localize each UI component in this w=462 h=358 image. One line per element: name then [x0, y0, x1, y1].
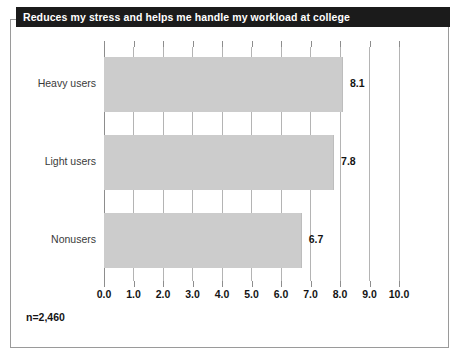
- tick-bottom-1.0: [134, 281, 135, 287]
- x-axis-tick-labels: 0.01.02.03.04.05.06.07.08.09.010.0: [104, 288, 399, 302]
- plot-area: 8.17.86.7: [104, 47, 399, 281]
- gridline-10.0: [399, 47, 400, 281]
- bar-heavy-users[interactable]: [104, 57, 343, 112]
- tick-bottom-8.0: [340, 281, 341, 287]
- chart-title-bar: Reduces my stress and helps me handle my…: [16, 7, 450, 27]
- tick-bottom-0.0: [104, 281, 105, 287]
- category-label-heavy-users: Heavy users: [6, 77, 96, 89]
- tick-top-8.0: [340, 41, 341, 47]
- bar-value-label-heavy-users: 8.1: [350, 77, 365, 89]
- tick-bottom-3.0: [193, 281, 194, 287]
- x-tick-label-4.0: 4.0: [215, 288, 230, 300]
- tick-top-10.0: [399, 41, 400, 47]
- tick-bottom-5.0: [252, 281, 253, 287]
- page-title: Reduces my stress and helps me handle my…: [23, 11, 350, 23]
- sample-size-footnote: n=2,460: [26, 311, 65, 323]
- category-label-nonusers: Nonusers: [6, 233, 96, 245]
- tick-top-6.0: [281, 41, 282, 47]
- tick-top-9.0: [370, 41, 371, 47]
- tick-bottom-2.0: [163, 281, 164, 287]
- x-tick-label-9.0: 9.0: [362, 288, 377, 300]
- tick-bottom-6.0: [281, 281, 282, 287]
- tick-bottom-7.0: [311, 281, 312, 287]
- x-tick-label-1.0: 1.0: [126, 288, 141, 300]
- x-tick-label-3.0: 3.0: [185, 288, 200, 300]
- tick-top-2.0: [163, 41, 164, 47]
- gridline-9.0: [369, 47, 370, 281]
- category-label-light-users: Light users: [6, 155, 96, 167]
- tick-bottom-9.0: [370, 281, 371, 287]
- x-tick-label-10.0: 10.0: [389, 288, 409, 300]
- x-tick-label-7.0: 7.0: [303, 288, 318, 300]
- tick-top-3.0: [193, 41, 194, 47]
- tick-top-1.0: [134, 41, 135, 47]
- tick-top-0.0: [104, 41, 105, 47]
- bar-value-label-nonusers: 6.7: [309, 233, 324, 245]
- tick-top-4.0: [222, 41, 223, 47]
- x-tick-label-0.0: 0.0: [97, 288, 112, 300]
- tick-bottom-10.0: [399, 281, 400, 287]
- category-axis-labels: Heavy usersLight usersNonusers: [4, 47, 96, 281]
- x-tick-label-6.0: 6.0: [274, 288, 289, 300]
- tick-top-7.0: [311, 41, 312, 47]
- tick-top-5.0: [252, 41, 253, 47]
- x-tick-label-5.0: 5.0: [244, 288, 259, 300]
- x-tick-label-2.0: 2.0: [156, 288, 171, 300]
- x-tick-label-8.0: 8.0: [333, 288, 348, 300]
- tick-bottom-4.0: [222, 281, 223, 287]
- bar-nonusers[interactable]: [104, 213, 302, 268]
- bar-light-users[interactable]: [104, 135, 334, 190]
- bar-value-label-light-users: 7.8: [341, 155, 356, 167]
